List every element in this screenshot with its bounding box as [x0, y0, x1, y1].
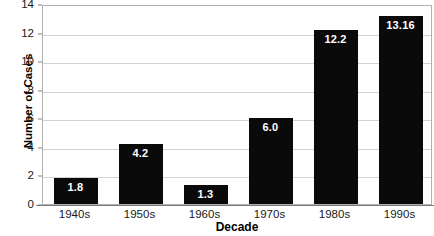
bar-value-label: 1.3 [184, 188, 228, 200]
x-tick-label: 1980s [302, 208, 367, 220]
bar-value-label: 13.16 [379, 19, 423, 31]
y-tick-label: 10 [2, 56, 34, 68]
bar-value-label: 6.0 [249, 121, 293, 133]
bar-slot: 4.2 [108, 6, 173, 204]
y-tick-label: 2 [2, 171, 34, 183]
bar[interactable]: 1.3 [184, 185, 228, 204]
bar[interactable]: 1.8 [54, 178, 98, 204]
bar-slot: 1.3 [173, 6, 238, 204]
y-tick-label: 4 [2, 142, 34, 154]
bar-slot: 6.0 [238, 6, 303, 204]
x-tick-label: 1990s [367, 208, 432, 220]
plot-area: 1.84.21.36.012.213.16 [42, 5, 432, 205]
y-tick-label: 8 [2, 85, 34, 97]
x-tick-label: 1940s [42, 208, 107, 220]
bars-group: 1.84.21.36.012.213.16 [43, 6, 431, 204]
x-tick-label: 1960s [172, 208, 237, 220]
bar-slot: 1.8 [43, 6, 108, 204]
y-axis-tick-labels: 02468101214 [0, 0, 40, 236]
x-tick-label: 1950s [107, 208, 172, 220]
bar-chart: Number of Cases 02468101214 1.84.21.36.0… [0, 0, 434, 236]
y-tick-label: 14 [2, 0, 34, 11]
y-tick-label: 0 [2, 199, 34, 211]
x-axis-title: Decade [42, 220, 432, 234]
bar[interactable]: 13.16 [379, 16, 423, 204]
y-tick-label: 12 [2, 28, 34, 40]
y-tick-label: 6 [2, 114, 34, 126]
bar[interactable]: 4.2 [119, 144, 163, 204]
x-tick-label: 1970s [237, 208, 302, 220]
bar-slot: 12.2 [303, 6, 368, 204]
bar[interactable]: 6.0 [249, 118, 293, 204]
bar-value-label: 1.8 [54, 181, 98, 193]
bar-value-label: 12.2 [314, 33, 358, 45]
bar[interactable]: 12.2 [314, 30, 358, 204]
bar-value-label: 4.2 [119, 147, 163, 159]
bar-slot: 13.16 [368, 6, 433, 204]
